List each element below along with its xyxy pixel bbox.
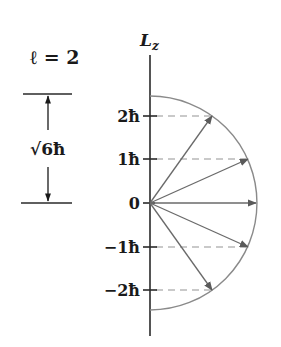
magnitude-dimension: √6ħ [21,94,72,203]
tick-label-m2: 2ħ [117,107,140,126]
tick-label-m-2: −2ħ [104,281,141,300]
magnitude-root: √6 [30,139,53,159]
magnitude-label: √6ħ [30,139,65,159]
axis-label: Lz [139,30,160,53]
angular-momentum-diagram: ℓ = 2 √6ħ Lz 2ħ 1ħ 0 −1ħ −2ħ [0,0,281,347]
axis-label-main: L [139,30,152,50]
vector-m1-arrow-icon [150,159,248,203]
quantum-number-title: ℓ = 2 [30,46,80,68]
axis-label-sub: z [151,39,160,53]
magnitude-unit: ħ [53,139,65,159]
tick-label-m1: 1ħ [117,150,140,169]
tick-label-m0: 0 [129,194,140,213]
tick-label-m-1: −1ħ [104,238,141,257]
vector-m-1-arrow-icon [150,203,248,247]
